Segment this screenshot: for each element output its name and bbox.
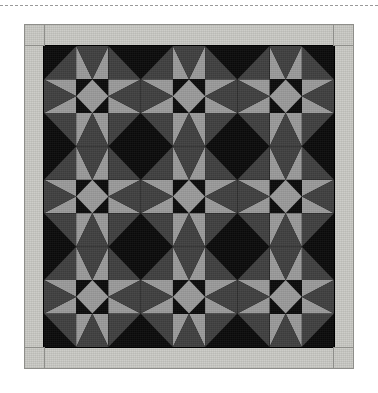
- patch: [44, 146, 76, 179]
- quilt-unit-corner-br: [302, 113, 334, 146]
- quilt-unit-corner-br: [205, 314, 237, 347]
- patch: [44, 213, 76, 246]
- quilt-unit-corner-tl: [237, 146, 269, 179]
- patch: [108, 146, 140, 179]
- patch: [302, 113, 334, 146]
- patch: [44, 46, 76, 79]
- quilt-unit-geese-up: [76, 247, 108, 280]
- quilt-unit-corner-tl: [44, 46, 76, 79]
- quilt-outer-border: [24, 24, 354, 369]
- quilt-unit-corner-tl: [141, 46, 173, 79]
- quilt-unit-corner-tl: [44, 247, 76, 280]
- quilt-unit-geese-left: [141, 79, 173, 112]
- quilt-unit-geese-left: [141, 180, 173, 213]
- quilt-unit-geese-down: [76, 314, 108, 347]
- patch: [76, 79, 108, 112]
- quilt-unit-corner-br: [302, 314, 334, 347]
- quilt-unit-geese-left: [237, 280, 269, 313]
- quilt-unit-center: [76, 79, 108, 112]
- quilt-unit-geese-down: [173, 314, 205, 347]
- quilt-unit-geese-up: [76, 46, 108, 79]
- quilt-unit-corner-bl: [237, 314, 269, 347]
- patch: [173, 280, 205, 313]
- quilt-unit-corner-tl: [141, 146, 173, 179]
- quilt-unit-center: [76, 280, 108, 313]
- quilt-unit-geese-up: [270, 247, 302, 280]
- patch: [141, 213, 173, 246]
- border-seam-top: [44, 25, 45, 45]
- patch: [205, 46, 237, 79]
- quilt-unit-geese-right: [205, 79, 237, 112]
- patch: [237, 113, 269, 146]
- patch: [270, 79, 302, 112]
- patch: [237, 146, 269, 179]
- border-seam-top-2: [333, 25, 334, 45]
- quilt-unit-corner-br: [205, 213, 237, 246]
- page-canvas: [0, 0, 378, 393]
- quilt-unit-corner-bl: [44, 213, 76, 246]
- patch: [302, 314, 334, 347]
- quilt-unit-geese-right: [108, 280, 140, 313]
- quilt-unit-geese-right: [205, 180, 237, 213]
- quilt-unit-geese-down: [270, 113, 302, 146]
- patch: [237, 247, 269, 280]
- patch: [205, 213, 237, 246]
- quilt-unit-geese-down: [173, 113, 205, 146]
- quilt-unit-geese-up: [173, 247, 205, 280]
- quilt-unit-corner-bl: [141, 213, 173, 246]
- quilt-unit-corner-tr: [108, 46, 140, 79]
- quilt-unit-geese-down: [76, 213, 108, 246]
- quilt-unit-corner-bl: [44, 314, 76, 347]
- patch: [108, 46, 140, 79]
- quilt-unit-geese-down: [173, 213, 205, 246]
- quilt-unit-geese-up: [173, 46, 205, 79]
- quilt-unit-geese-up: [270, 46, 302, 79]
- quilt-unit-corner-br: [108, 213, 140, 246]
- quilt-unit-geese-down: [76, 113, 108, 146]
- patch: [76, 180, 108, 213]
- patch: [302, 247, 334, 280]
- patch: [237, 46, 269, 79]
- quilt-unit-corner-tr: [302, 146, 334, 179]
- border-seam-right-2: [333, 347, 354, 348]
- patch: [173, 79, 205, 112]
- patch: [302, 146, 334, 179]
- quilt-unit-center: [76, 180, 108, 213]
- quilt-unit-corner-bl: [44, 113, 76, 146]
- border-seam-right: [333, 45, 354, 46]
- quilt-unit-geese-right: [108, 79, 140, 112]
- patch: [76, 280, 108, 313]
- quilt-unit-corner-tl: [237, 247, 269, 280]
- quilt-unit-corner-br: [108, 314, 140, 347]
- quilt-unit-geese-right: [205, 280, 237, 313]
- patch: [108, 113, 140, 146]
- quilt-unit-corner-bl: [237, 213, 269, 246]
- patch: [205, 146, 237, 179]
- quilt-unit-corner-tr: [302, 247, 334, 280]
- quilt-unit-geese-right: [302, 180, 334, 213]
- quilt-unit-geese-left: [44, 79, 76, 112]
- quilt-unit-corner-bl: [237, 113, 269, 146]
- quilt-unit-geese-right: [302, 79, 334, 112]
- quilt-unit-geese-right: [108, 180, 140, 213]
- quilt-unit-center: [270, 280, 302, 313]
- patch: [44, 314, 76, 347]
- quilt-unit-geese-left: [237, 180, 269, 213]
- patch: [141, 113, 173, 146]
- border-seam-bottom-2: [333, 347, 334, 368]
- quilt-unit-geese-right: [302, 280, 334, 313]
- quilt-unit-geese-up: [76, 146, 108, 179]
- patch: [141, 46, 173, 79]
- border-seam-left: [25, 45, 45, 46]
- quilt-unit-center: [173, 79, 205, 112]
- quilt-unit-geese-left: [141, 280, 173, 313]
- quilt-unit-corner-tr: [205, 46, 237, 79]
- quilt-unit-geese-left: [44, 280, 76, 313]
- quilt-unit-center: [270, 79, 302, 112]
- quilt-unit-center: [173, 180, 205, 213]
- quilt-unit-corner-tr: [108, 247, 140, 280]
- quilt-unit-corner-tr: [205, 247, 237, 280]
- patch: [205, 314, 237, 347]
- patch: [108, 247, 140, 280]
- quilt-unit-corner-bl: [141, 113, 173, 146]
